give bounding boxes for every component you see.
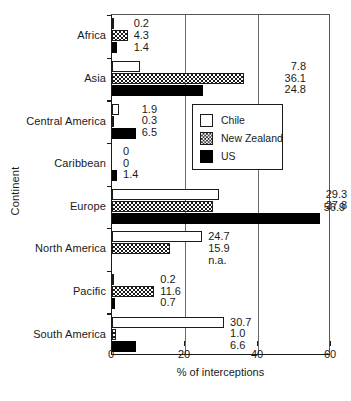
x-axis-tick-label: 0	[91, 348, 131, 360]
value-label: 0.2	[160, 274, 181, 286]
chart-legend: ChileNew ZealandUS	[192, 104, 283, 170]
bar-chile	[112, 61, 140, 72]
y-axis-tick	[107, 100, 112, 101]
category-label: Europe	[2, 200, 106, 212]
plot-area: Africa0.24.31.4Asia7.836.124.8Central Am…	[111, 14, 330, 355]
value-label-group: 1.90.36.5	[142, 104, 157, 139]
x-axis-tick-label: 20	[164, 348, 204, 360]
category-row: Pacific0.211.60.7	[112, 271, 329, 314]
category-row: Europe29.327.856.9	[112, 186, 329, 229]
category-row: South America30.71.06.6	[112, 313, 329, 356]
value-label: 1.4	[123, 169, 138, 181]
y-axis-tick	[107, 271, 112, 272]
x-axis-tick	[111, 341, 112, 346]
category-label: North America	[2, 242, 106, 254]
y-axis-tick	[107, 228, 112, 229]
bar-new-zealand	[112, 30, 128, 41]
x-axis-tick-label: 40	[237, 348, 277, 360]
bar-new-zealand	[112, 201, 213, 212]
category-row: North America24.715.9n.a.	[112, 228, 329, 271]
bar-us	[112, 298, 115, 309]
bar-new-zealand	[112, 243, 170, 254]
y-axis-tick	[107, 313, 112, 314]
value-label: n.a.	[208, 255, 229, 267]
value-label-group: 7.836.124.8	[237, 61, 306, 96]
bar-new-zealand	[112, 286, 154, 297]
value-label-group: 30.71.06.6	[230, 317, 251, 352]
category-row: Asia7.836.124.8	[112, 58, 329, 101]
checkered-square-icon	[200, 132, 213, 145]
x-axis-title: % of interceptions	[111, 366, 330, 378]
legend-label: New Zealand	[221, 132, 283, 144]
value-label-group: 001.4	[123, 146, 138, 181]
x-axis-tick	[257, 341, 258, 346]
category-label: Asia	[2, 72, 106, 84]
value-label: 24.8	[237, 84, 306, 96]
y-axis-tick	[107, 143, 112, 144]
white-square-icon	[200, 114, 213, 127]
legend-item: Chile	[200, 111, 282, 129]
value-label	[326, 212, 347, 224]
bar-chile	[112, 317, 224, 328]
value-label: 56.9	[324, 202, 345, 214]
legend-label: US	[221, 150, 236, 162]
bar-chile	[112, 274, 114, 285]
bar-us	[112, 85, 203, 96]
bar-chile	[112, 104, 119, 115]
category-label: Pacific	[2, 285, 106, 297]
bar-new-zealand	[112, 329, 116, 340]
legend-item: New Zealand	[200, 129, 282, 147]
black-square-icon	[200, 150, 213, 163]
bar-new-zealand	[112, 73, 244, 84]
value-label: 15.9	[208, 243, 229, 255]
value-label: 0.7	[160, 297, 181, 309]
legend-item: US	[200, 147, 282, 165]
y-axis-tick	[107, 58, 112, 59]
category-label: South America	[2, 328, 106, 340]
value-label-group: 0.24.31.4	[134, 18, 149, 53]
value-label-group: 0.211.60.7	[160, 274, 181, 309]
value-label: 1.4	[134, 42, 149, 54]
chart-figure: Continent Africa0.24.31.4Asia7.836.124.8…	[0, 0, 351, 401]
value-label: 4.3	[134, 30, 149, 42]
category-label: Central America	[2, 115, 106, 127]
category-label: Africa	[2, 29, 106, 41]
bar-chile	[112, 231, 202, 242]
y-axis-tick	[107, 15, 112, 16]
value-label: 0.3	[142, 115, 157, 127]
value-label: 7.8	[237, 61, 306, 73]
bar-us	[112, 213, 320, 224]
bar-us	[112, 42, 117, 53]
y-axis-tick	[107, 186, 112, 187]
category-label: Caribbean	[2, 157, 106, 169]
value-label: 6.5	[142, 127, 157, 139]
bar-us	[112, 170, 117, 181]
bar-chile	[112, 189, 219, 200]
x-axis-tick-label: 60	[310, 348, 350, 360]
legend-label: Chile	[221, 114, 245, 126]
bar-us	[112, 128, 136, 139]
bar-new-zealand	[112, 116, 114, 127]
bar-chile	[112, 18, 114, 29]
x-axis-tick	[184, 341, 185, 346]
x-axis-tick	[330, 341, 331, 346]
category-row: Africa0.24.31.4	[112, 15, 329, 58]
value-label-group: 24.715.9n.a.	[208, 231, 229, 266]
